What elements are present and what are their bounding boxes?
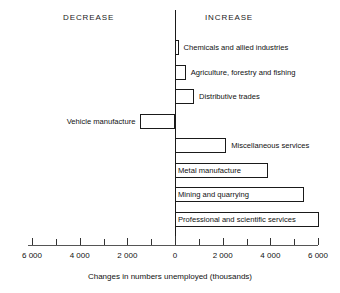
bar[interactable] xyxy=(175,65,186,80)
bar-label: Distributive trades xyxy=(199,90,260,103)
bar-row: Distributive trades xyxy=(0,89,340,111)
x-axis-minor-tick xyxy=(294,239,295,245)
bar[interactable] xyxy=(140,114,175,129)
bar-label: Metal manufacture xyxy=(178,164,241,177)
x-axis-tick xyxy=(175,236,176,245)
bar-label: Chemicals and allied industries xyxy=(184,41,289,54)
x-axis-tick xyxy=(32,238,33,245)
x-axis-tick xyxy=(318,238,319,245)
bar-row: Vehicle manufacture xyxy=(0,114,340,136)
bar-label: Mining and quarrying xyxy=(178,188,249,201)
bar-row: Chemicals and allied industries xyxy=(0,40,340,62)
bar-row: Professional and scientific services xyxy=(0,212,340,234)
x-axis-tick-label: 2 000 xyxy=(117,251,137,260)
x-axis-tick xyxy=(80,238,81,245)
bar-label: Vehicle manufacture xyxy=(67,115,136,128)
bar-row: Metal manufacture xyxy=(0,163,340,185)
x-axis-tick-label: 6 000 xyxy=(22,251,42,260)
bar-label: Miscellaneous services xyxy=(231,139,309,152)
bar-label: Professional and scientific services xyxy=(178,213,296,226)
chart-container: DECREASE INCREASE Chemicals and allied i… xyxy=(0,0,340,293)
x-axis-tick-label: 4 000 xyxy=(260,251,280,260)
x-axis-tick-label: 0 xyxy=(173,251,177,260)
bar[interactable] xyxy=(175,138,226,153)
bar-label: Agriculture, forestry and fishing xyxy=(191,66,296,79)
x-axis-minor-tick xyxy=(199,239,200,245)
x-axis-line xyxy=(28,245,318,246)
bar-row: Agriculture, forestry and fishing xyxy=(0,65,340,87)
x-axis-tick xyxy=(127,238,128,245)
bar[interactable] xyxy=(175,40,179,55)
bar[interactable] xyxy=(175,89,194,104)
x-axis-tick-label: 6 000 xyxy=(308,251,328,260)
x-axis-title: Changes in numbers unemployed (thousands… xyxy=(0,272,340,281)
x-axis-tick-label: 2 000 xyxy=(213,251,233,260)
x-axis-minor-tick xyxy=(247,239,248,245)
x-axis-minor-tick xyxy=(104,239,105,245)
x-axis-minor-tick xyxy=(151,239,152,245)
x-axis-tick xyxy=(270,238,271,245)
x-axis-tick xyxy=(223,238,224,245)
x-axis-minor-tick xyxy=(56,239,57,245)
bar-row: Mining and quarrying xyxy=(0,187,340,209)
x-axis-tick-label: 4 000 xyxy=(70,251,90,260)
bar-row: Miscellaneous services xyxy=(0,138,340,160)
bars-group: Chemicals and allied industriesAgricultu… xyxy=(0,0,340,235)
